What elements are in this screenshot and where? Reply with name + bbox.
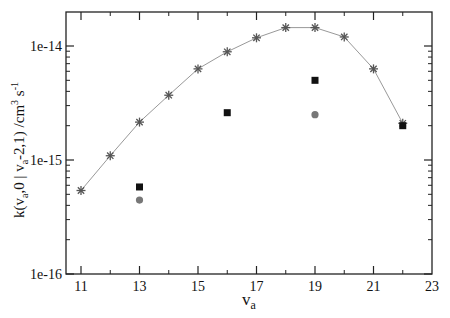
- y-tick-label: 1e-14: [30, 39, 62, 54]
- x-tick-label: 15: [191, 279, 205, 294]
- square-marker: [399, 122, 406, 129]
- square-marker: [136, 183, 143, 190]
- circle-marker: [136, 196, 143, 203]
- series-line: [81, 28, 403, 191]
- square-marker: [224, 109, 231, 116]
- asterisk-marker: [252, 33, 261, 42]
- series-experiment-circles: [136, 111, 319, 204]
- circle-marker: [311, 111, 318, 118]
- series-experiment-squares: [136, 77, 406, 191]
- x-axis-ticks: 11131517192123: [74, 12, 439, 294]
- chart-svg: 1e-161e-151e-14 11131517192123 va k(va,0…: [0, 0, 450, 318]
- asterisk-marker: [164, 91, 173, 100]
- x-tick-label: 13: [133, 279, 147, 294]
- asterisk-marker: [77, 186, 86, 195]
- series-calculated: [77, 23, 408, 195]
- y-axis-label: k(va,0 | va-2,1) /cm3 s-1: [9, 82, 30, 218]
- x-tick-label: 23: [425, 279, 439, 294]
- asterisk-marker: [340, 32, 349, 41]
- y-tick-label: 1e-15: [30, 153, 62, 168]
- asterisk-marker: [223, 47, 232, 56]
- x-tick-label: 19: [308, 279, 322, 294]
- x-tick-label: 11: [74, 279, 87, 294]
- asterisk-marker: [135, 118, 144, 127]
- x-tick-label: 21: [367, 279, 381, 294]
- series-layer: [77, 23, 408, 204]
- y-axis-ticks: 1e-161e-151e-14: [30, 39, 432, 282]
- asterisk-marker: [369, 64, 378, 73]
- asterisk-marker: [311, 23, 320, 32]
- chart-container: 1e-161e-151e-14 11131517192123 va k(va,0…: [0, 0, 450, 318]
- y-tick-label: 1e-16: [30, 267, 62, 282]
- x-tick-label: 17: [250, 279, 264, 294]
- square-marker: [312, 77, 319, 84]
- asterisk-marker: [194, 64, 203, 73]
- asterisk-marker: [106, 151, 115, 160]
- asterisk-marker: [281, 23, 290, 32]
